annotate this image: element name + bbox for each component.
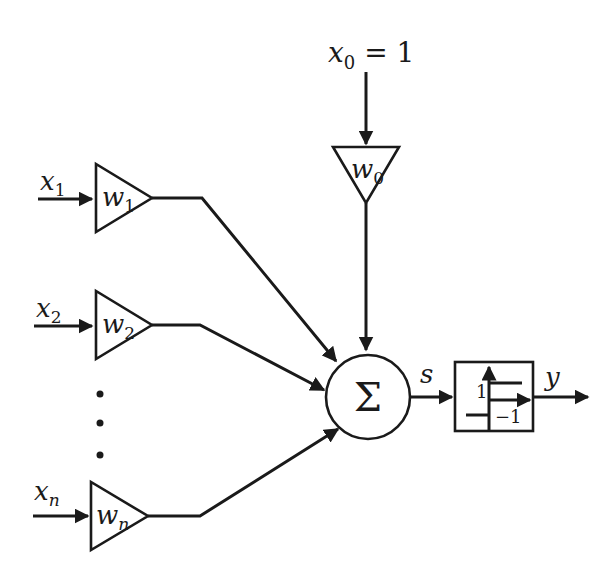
- input-xn-label: xn: [34, 476, 60, 510]
- activation-low-label: −1: [495, 406, 522, 427]
- summation-node: Σ: [326, 355, 410, 439]
- svg-text:xn: xn: [34, 476, 60, 510]
- perceptron-diagram: x0 = 1 w0 x1 w1 x2 w2 xn wn: [0, 0, 614, 577]
- weight-w2-node: w2: [96, 291, 152, 359]
- svg-text:x2: x2: [36, 293, 62, 327]
- w2-to-sum-connector: [152, 325, 324, 390]
- bias-weight-node: w0: [333, 147, 399, 203]
- svg-text:x1: x1: [40, 166, 66, 200]
- sum-output-label: s: [420, 359, 433, 389]
- sigma-symbol: Σ: [354, 374, 382, 420]
- activation-high-label: 1: [476, 381, 487, 402]
- input-x1-label: x1: [40, 166, 66, 200]
- w1-to-sum-connector: [152, 198, 336, 361]
- weight-w1-node: w1: [96, 164, 152, 232]
- svg-text:x0 = 1: x0 = 1: [328, 36, 414, 73]
- weight-wn-node: wn: [91, 482, 148, 550]
- input-x2-label: x2: [36, 293, 62, 327]
- output-label: y: [544, 362, 560, 392]
- ellipsis-dots: [97, 391, 104, 459]
- wn-to-sum-connector: [148, 429, 338, 516]
- bias-input-label: x0 = 1: [328, 36, 414, 73]
